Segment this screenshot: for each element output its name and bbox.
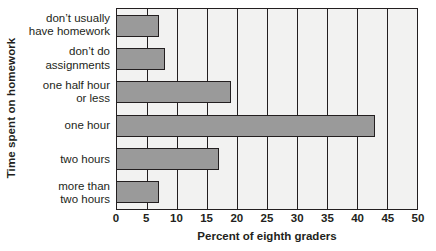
bar-slot: [117, 142, 417, 175]
x-axis-tick-label: 15: [200, 212, 213, 224]
bar-slot: [117, 176, 417, 209]
category-label-line: one hour: [65, 119, 110, 132]
category-label-line: more than: [58, 180, 110, 193]
x-axis-tick-labels: 05101520253035404550: [116, 212, 418, 228]
x-axis-tick-label: 20: [230, 212, 243, 224]
x-axis-tick-label: 40: [351, 212, 364, 224]
category-label-line: or less: [76, 92, 110, 105]
category-label: one half houror less: [20, 75, 115, 109]
plot-area: [116, 8, 418, 210]
category-label: one hour: [20, 109, 115, 143]
category-label-line: have homework: [29, 25, 110, 38]
bar-slot: [117, 109, 417, 142]
bar: [116, 15, 159, 37]
x-axis-tick-label: 50: [412, 212, 425, 224]
category-label-line: don’t do: [69, 45, 110, 58]
x-axis-tick-label: 45: [381, 212, 394, 224]
bar-slot: [117, 42, 417, 75]
category-label: more thantwo hours: [20, 176, 115, 210]
bar-slot: [117, 76, 417, 109]
x-axis-tick-label: 25: [261, 212, 274, 224]
bar: [116, 115, 375, 137]
bar: [116, 48, 165, 70]
category-label-line: two hours: [60, 153, 110, 166]
category-axis-labels: don’t usuallyhave homeworkdon’t doassign…: [20, 8, 115, 210]
bar-chart: Time spent on homework don’t usuallyhave…: [0, 0, 436, 251]
bar: [116, 181, 159, 203]
category-label: two hours: [20, 143, 115, 177]
bar: [116, 81, 231, 103]
category-label-line: assignments: [45, 59, 110, 72]
category-label-line: one half hour: [43, 79, 110, 92]
x-axis-tick-label: 0: [113, 212, 119, 224]
bar: [116, 148, 219, 170]
x-axis-title: Percent of eighth graders: [116, 230, 418, 242]
category-label: don’t doassignments: [20, 42, 115, 76]
y-axis-title-text: Time spent on homework: [5, 37, 17, 178]
y-axis-title: Time spent on homework: [0, 0, 22, 215]
x-axis-tick-label: 30: [291, 212, 304, 224]
x-axis-tick-label: 35: [321, 212, 334, 224]
category-label-line: two hours: [60, 193, 110, 206]
category-label-line: don’t usually: [46, 12, 110, 25]
x-axis-tick-label: 10: [170, 212, 183, 224]
x-axis-tick-label: 5: [143, 212, 149, 224]
bar-slot: [117, 9, 417, 42]
bar-series: [117, 9, 417, 209]
category-label: don’t usuallyhave homework: [20, 8, 115, 42]
